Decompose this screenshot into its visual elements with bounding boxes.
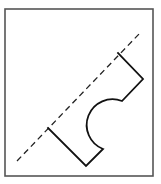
notched-shape-outline [48, 53, 143, 166]
diagram-canvas [0, 0, 161, 184]
dashed-fold-line [17, 33, 140, 161]
